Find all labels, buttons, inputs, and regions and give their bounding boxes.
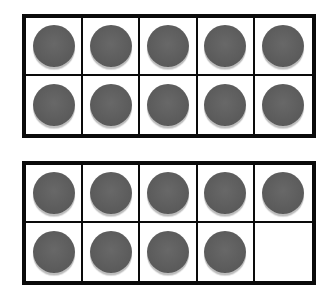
counter-icon (33, 172, 75, 214)
frame-cell (140, 223, 197, 281)
counter-icon (147, 25, 189, 67)
frame-cell (26, 76, 83, 134)
ten-frame-bottom (22, 161, 316, 285)
frame-cell (83, 76, 140, 134)
counter-icon (33, 84, 75, 126)
frame-cell (255, 18, 312, 76)
frame-cell (83, 165, 140, 223)
frame-cell (198, 18, 255, 76)
counter-icon (147, 172, 189, 214)
counter-icon (33, 231, 75, 273)
counter-icon (33, 25, 75, 67)
frame-cell (255, 76, 312, 134)
frame-cell (198, 165, 255, 223)
counter-icon (90, 84, 132, 126)
counter-icon (147, 84, 189, 126)
counter-icon (204, 172, 246, 214)
ten-frame-top (22, 14, 316, 138)
frame-cell (255, 223, 312, 281)
counter-icon (262, 172, 304, 214)
frame-cell (26, 223, 83, 281)
counter-icon (204, 231, 246, 273)
counter-icon (147, 231, 189, 273)
frame-cell (83, 18, 140, 76)
counter-icon (204, 25, 246, 67)
frame-cell (140, 76, 197, 134)
frame-cell (140, 18, 197, 76)
counter-icon (262, 84, 304, 126)
counter-icon (90, 172, 132, 214)
counter-icon (204, 84, 246, 126)
frame-cell (26, 18, 83, 76)
frame-cell (83, 223, 140, 281)
frame-cell (255, 165, 312, 223)
counter-icon (90, 231, 132, 273)
counter-icon (90, 25, 132, 67)
frame-cell (198, 223, 255, 281)
frame-cell (140, 165, 197, 223)
frame-cell (26, 165, 83, 223)
frame-cell (198, 76, 255, 134)
counter-icon (262, 25, 304, 67)
